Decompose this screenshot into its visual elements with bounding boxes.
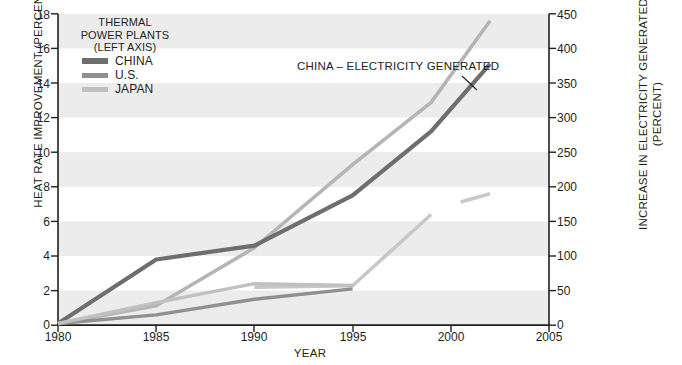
annotation-china-electricity: CHINA – ELECTRICITY GENERATED [297,60,499,72]
legend-title: THERMAL POWER PLANTS (LEFT AXIS) [66,16,184,54]
legend-title-line2: POWER PLANTS [66,29,184,42]
series-line-u-s-electricity-generated [461,194,490,202]
legend-label-japan: JAPAN [115,83,153,96]
legend-label-china: CHINA [115,55,153,68]
legend-swatch-us [82,73,108,78]
legend-item-us: U.S. [66,69,184,82]
legend-swatch-china [82,58,108,64]
legend-swatch-japan [82,87,108,92]
legend: THERMAL POWER PLANTS (LEFT AXIS) CHINA U… [66,16,184,96]
legend-title-line1: THERMAL [66,16,184,29]
chart-container: HEAT RATE IMPROVEMENT (PERCENT) INCREASE… [0,0,682,365]
legend-item-japan: JAPAN [66,83,184,96]
legend-item-china: CHINA [66,55,184,68]
legend-label-us: U.S. [115,69,139,82]
legend-title-line3: (LEFT AXIS) [66,41,184,54]
